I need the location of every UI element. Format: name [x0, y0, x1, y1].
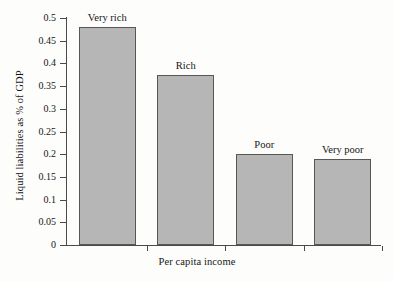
bar-category-label: Very rich [47, 12, 167, 23]
bar-category-label: Very poor [283, 144, 394, 155]
y-axis-tick-mark [60, 222, 66, 223]
y-axis-tick-label: 0.3 [0, 103, 56, 115]
y-axis-tick-label: 0.2 [0, 148, 56, 160]
x-axis-tick-mark [382, 246, 383, 251]
y-axis-tick-label-text: 0.15 [4, 171, 56, 182]
y-axis-line [66, 17, 67, 246]
y-axis-tick-label-text: 0.35 [4, 80, 56, 91]
y-axis-tick-label-text: 0.1 [4, 194, 56, 205]
bar-category-label: Rich [126, 60, 246, 71]
bar [314, 159, 371, 245]
y-axis-tick-mark [60, 86, 66, 87]
y-axis-tick-label: 0.4 [0, 57, 56, 69]
y-axis-tick-label-text: 0.3 [4, 103, 56, 114]
bar [236, 154, 293, 245]
y-axis-tick-label-text: 0.4 [4, 57, 56, 68]
x-axis-tick-mark [147, 246, 148, 251]
y-axis-tick-label-text: 0.05 [4, 216, 56, 227]
bar-chart: Liquid liabilities as % of GDP 00.050.10… [0, 0, 394, 282]
y-axis-tick-label-text: 0 [4, 239, 56, 250]
y-axis-tick-mark [60, 245, 66, 246]
x-axis-title: Per capita income [0, 256, 394, 267]
y-axis-tick-label-text: 0.45 [4, 35, 56, 46]
y-axis-tick-label: 0.45 [0, 35, 56, 47]
y-axis-tick-label: 0.15 [0, 171, 56, 183]
y-axis-tick-label-text: 0.2 [4, 148, 56, 159]
x-axis-line [66, 245, 381, 246]
y-axis-tick-mark [60, 177, 66, 178]
y-axis-tick-label: 0.05 [0, 216, 56, 228]
y-axis-tick-label: 0.1 [0, 194, 56, 206]
y-axis-tick-label: 0 [0, 239, 56, 251]
y-axis-tick-label: 0.35 [0, 80, 56, 92]
bar [157, 75, 214, 245]
y-axis-tick-mark [60, 109, 66, 110]
y-axis-tick-mark [60, 41, 66, 42]
y-axis-tick-label-text: 0.25 [4, 126, 56, 137]
y-axis-tick-mark [60, 132, 66, 133]
y-axis-tick-label: 0.25 [0, 126, 56, 138]
y-axis-tick-mark [60, 154, 66, 155]
y-axis-tick-mark [60, 200, 66, 201]
x-axis-tick-mark [225, 246, 226, 251]
y-axis-tick-mark [60, 63, 66, 64]
x-axis-tick-mark [304, 246, 305, 251]
